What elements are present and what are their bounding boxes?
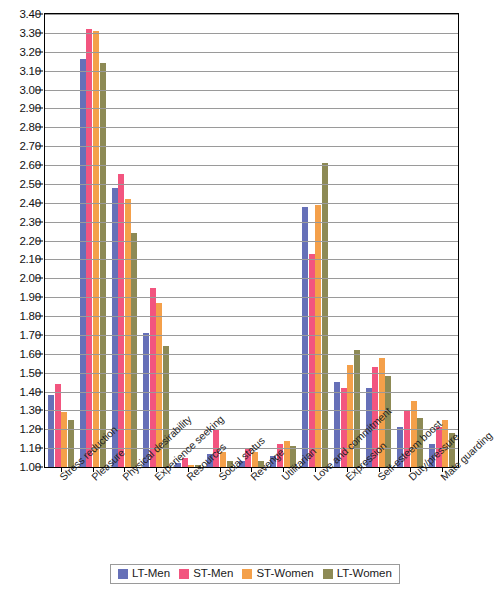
y-axis-tick-mark: [36, 146, 43, 147]
legend-item[interactable]: LT-Men: [118, 568, 170, 580]
y-axis-tick-mark: [36, 240, 43, 241]
gridline: [45, 392, 458, 393]
bar: [302, 207, 308, 467]
legend-swatch-icon: [179, 569, 189, 579]
gridline: [45, 71, 458, 72]
bar: [55, 384, 61, 467]
y-axis-tick-mark: [36, 127, 43, 128]
gridline: [45, 259, 458, 260]
plot-area: [44, 13, 459, 468]
gridline: [45, 278, 458, 279]
legend-swatch-icon: [118, 569, 128, 579]
bar: [61, 412, 67, 467]
y-axis-tick-mark: [36, 372, 43, 373]
legend-swatch-icon: [242, 569, 252, 579]
bar: [86, 29, 92, 467]
y-axis-tick-mark: [36, 108, 43, 109]
gridline: [45, 203, 458, 204]
y-axis-tick-mark: [36, 32, 43, 33]
legend-item[interactable]: LT-Women: [323, 568, 392, 580]
y-axis-tick-mark: [36, 353, 43, 354]
gridline: [45, 146, 458, 147]
bar: [385, 376, 391, 467]
y-axis-tick-mark: [36, 221, 43, 222]
gridline: [45, 14, 458, 15]
gridline: [45, 354, 458, 355]
bar: [80, 59, 86, 467]
y-axis-tick-mark: [36, 297, 43, 298]
bar: [309, 254, 315, 467]
gridline: [45, 316, 458, 317]
y-axis-tick-mark: [36, 183, 43, 184]
y-axis-tick-mark: [36, 448, 43, 449]
y-axis-tick-mark: [36, 51, 43, 52]
gridline: [45, 127, 458, 128]
bar: [93, 31, 99, 467]
gridline: [45, 184, 458, 185]
legend-label: LT-Women: [337, 568, 392, 580]
legend-swatch-icon: [323, 569, 333, 579]
y-axis-tick-mark: [36, 259, 43, 260]
bar: [131, 233, 137, 467]
y-axis-tick-mark: [36, 391, 43, 392]
gridline: [45, 410, 458, 411]
y-axis-tick-mark: [36, 202, 43, 203]
gridline: [45, 297, 458, 298]
legend-item[interactable]: ST-Men: [179, 568, 233, 580]
y-axis-tick-mark: [36, 410, 43, 411]
gridline: [45, 222, 458, 223]
gridline: [45, 33, 458, 34]
chart-legend: LT-MenST-MenST-WomenLT-Women: [110, 564, 400, 584]
y-axis-tick-mark: [36, 70, 43, 71]
y-axis-tick-mark: [36, 334, 43, 335]
y-axis-tick-mark: [36, 165, 43, 166]
gridline: [45, 165, 458, 166]
x-axis-labels: Stress reductionPleasurePhysical desirab…: [0, 470, 469, 555]
bar: [125, 199, 131, 467]
gridline: [45, 52, 458, 53]
y-axis-tick-mark: [36, 278, 43, 279]
legend-label: ST-Men: [193, 568, 233, 580]
gridline: [45, 373, 458, 374]
gridline: [45, 90, 458, 91]
bar: [48, 395, 54, 467]
gridline: [45, 108, 458, 109]
gridline: [45, 241, 458, 242]
bar: [100, 63, 106, 467]
y-axis-tick-mark: [36, 467, 43, 468]
y-axis-tick-mark: [36, 429, 43, 430]
legend-label: ST-Women: [256, 568, 313, 580]
legend-item[interactable]: ST-Women: [242, 568, 313, 580]
legend-label: LT-Men: [132, 568, 170, 580]
y-axis-tick-mark: [36, 89, 43, 90]
bar: [118, 174, 124, 467]
y-axis-tick-mark: [36, 316, 43, 317]
gridline: [45, 335, 458, 336]
y-axis-tick-mark: [36, 14, 43, 15]
